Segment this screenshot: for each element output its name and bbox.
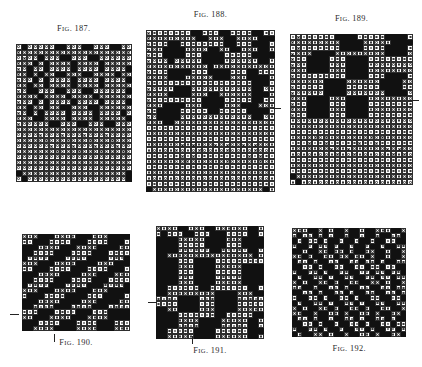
pattern-cell <box>269 187 275 193</box>
pattern-cell <box>407 179 413 185</box>
pattern-grid <box>292 228 406 337</box>
caption-number: . 187. <box>70 24 91 33</box>
pattern-grid <box>156 226 264 339</box>
caption-number: . 191. <box>206 346 227 355</box>
pattern-grid <box>146 30 275 192</box>
edge-tick-right <box>410 100 419 101</box>
figure-189 <box>290 34 413 185</box>
pattern-cell <box>401 332 406 337</box>
figure-191 <box>156 226 264 339</box>
clipped-header-line <box>0 0 422 7</box>
figure-caption: FIG. 187. <box>34 24 114 33</box>
pattern-cell <box>126 176 132 182</box>
figure-caption: FIG. 189. <box>312 14 392 23</box>
figure-caption: FIG. 192. <box>309 344 389 353</box>
caption-smallcaps: IG <box>64 339 72 346</box>
pattern-cell <box>258 334 263 339</box>
figure-caption: FIG. 191. <box>170 346 250 355</box>
figure-187 <box>16 44 132 182</box>
edge-tick-left <box>148 302 157 303</box>
pattern-cell <box>124 326 129 331</box>
pattern-grid <box>22 234 130 331</box>
figure-188 <box>146 30 275 192</box>
caption-number: . 188. <box>206 10 227 19</box>
figure-192 <box>292 228 406 337</box>
caption-number: . 192. <box>345 344 366 353</box>
caption-number: . 189. <box>348 14 369 23</box>
pattern-grid <box>16 44 132 182</box>
pattern-grid <box>290 34 413 185</box>
caption-smallcaps: IG <box>340 15 348 22</box>
figure-190 <box>22 234 130 331</box>
figure-caption: FIG. 188. <box>170 10 250 19</box>
caption-smallcaps: IG <box>337 345 345 352</box>
figure-caption: FIG. 190. <box>36 338 116 347</box>
edge-tick-right <box>272 108 281 109</box>
caption-smallcaps: IG <box>198 347 206 354</box>
edge-tick-bottom <box>192 336 193 344</box>
edge-tick-left <box>10 314 19 315</box>
plate-page: FIG. 187.FIG. 188.FIG. 189.FIG. 190.FIG.… <box>0 0 422 367</box>
edge-tick-bottom <box>54 334 55 342</box>
caption-smallcaps: IG <box>62 25 70 32</box>
caption-number: . 190. <box>72 338 93 347</box>
